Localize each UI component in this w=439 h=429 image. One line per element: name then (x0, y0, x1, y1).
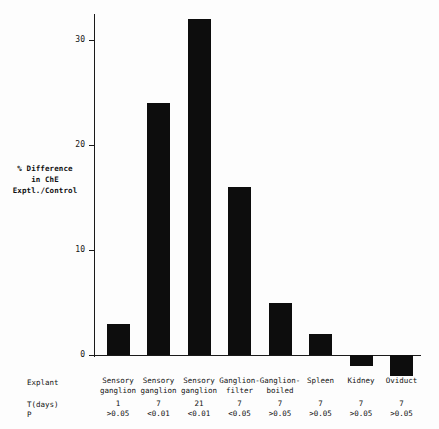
category-column: Kidney 7>0.05 (339, 376, 384, 395)
category-p-value: >0.05 (96, 409, 141, 419)
category-name-line-2: ganglion (136, 386, 181, 396)
y-tick-label-20: 20 (59, 141, 85, 149)
category-tdays-value: 7 (258, 399, 303, 409)
row-label-p: P (27, 410, 32, 419)
y-tick-label-10: 10 (59, 246, 85, 254)
category-p-value: <0.05 (217, 409, 262, 419)
category-tdays-value: 7 (217, 399, 262, 409)
bar (269, 303, 292, 356)
category-name-line-2 (298, 386, 343, 396)
category-name-line-2: boiled (258, 386, 303, 396)
category-column: Sensoryganglion21<0.01 (177, 376, 222, 395)
category-tdays-value: 7 (298, 399, 343, 409)
category-tdays-value: 21 (177, 399, 222, 409)
category-name-line-2 (339, 386, 384, 396)
category-p-value: <0.01 (177, 409, 222, 419)
y-tick-30 (89, 40, 95, 41)
category-p-value: >0.05 (339, 409, 384, 419)
bar (107, 324, 130, 356)
category-p-value: >0.05 (379, 409, 424, 419)
y-tick-label-30: 30 (59, 36, 85, 44)
category-name-line-1: Sensory (136, 376, 181, 386)
bar (188, 19, 211, 355)
category-name-line-1: Sensory (177, 376, 222, 386)
category-name-line-2: ganglion (96, 386, 141, 396)
category-column: Sensoryganglion1>0.05 (96, 376, 141, 395)
category-p-value: >0.05 (258, 409, 303, 419)
category-p-value: <0.01 (136, 409, 181, 419)
y-axis-line (94, 14, 95, 357)
category-name-line-1: Ganglion- (217, 376, 262, 386)
category-column: Oviduct 7>0.05 (379, 376, 424, 395)
category-name-line-2 (379, 386, 424, 396)
category-name-line-2: ganglion (177, 386, 222, 396)
category-tdays-value: 7 (379, 399, 424, 409)
category-name-line-1: Sensory (96, 376, 141, 386)
y-tick-10 (89, 250, 95, 251)
category-tdays-value: 7 (339, 399, 384, 409)
category-column: Spleen 7>0.05 (298, 376, 343, 395)
bar (390, 355, 413, 376)
category-name-line-1: Kidney (339, 376, 384, 386)
category-name-line-1: Oviduct (379, 376, 424, 386)
chart-page: % Difference in ChE Exptl./Control 01020… (0, 0, 439, 429)
category-tdays-value: 1 (96, 399, 141, 409)
row-label-tdays: T(days) (27, 400, 59, 409)
y-tick-0 (89, 355, 95, 356)
category-name-line-2: filter (217, 386, 262, 396)
bar (309, 334, 332, 355)
category-column: Sensoryganglion7<0.01 (136, 376, 181, 395)
y-tick-label-0: 0 (59, 351, 85, 359)
category-tdays-value: 7 (136, 399, 181, 409)
bar (350, 355, 373, 366)
y-tick-20 (89, 145, 95, 146)
plot-area: 0102030 (0, 0, 439, 429)
category-p-value: >0.05 (298, 409, 343, 419)
category-name-line-1: Spleen (298, 376, 343, 386)
bar (228, 187, 251, 355)
category-column: Ganglion-boiled7>0.05 (258, 376, 303, 395)
bar (147, 103, 170, 355)
row-label-explant: Explant (27, 378, 59, 387)
category-label-table: Explant T(days) P Sensoryganglion1>0.05S… (0, 376, 439, 429)
category-name-line-1: Ganglion- (258, 376, 303, 386)
category-column: Ganglion-filter7<0.05 (217, 376, 262, 395)
